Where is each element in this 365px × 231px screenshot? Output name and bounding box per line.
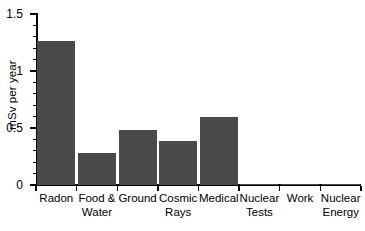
bar	[119, 130, 157, 185]
y-tick-label: 1	[16, 64, 26, 78]
x-tick-label: Radon	[36, 191, 77, 205]
bar	[281, 184, 319, 185]
x-tick-label: Ground	[117, 191, 158, 205]
x-tick-label: Food & Water	[77, 191, 118, 219]
x-tick-label: Cosmic Rays	[158, 191, 199, 219]
y-tick-label: 0.5	[6, 121, 26, 135]
bar	[37, 41, 75, 185]
y-tick-label: 1.5	[6, 7, 26, 21]
y-tick-label: 0	[16, 178, 26, 192]
bar	[200, 117, 238, 185]
x-tick-label: Nuclear Energy	[320, 191, 361, 219]
y-axis-title: mSv per year	[0, 0, 24, 190]
bar	[240, 184, 278, 185]
x-tick-label: Nuclear Tests	[239, 191, 280, 219]
bar	[78, 153, 116, 185]
plot-area	[36, 14, 361, 185]
x-tick-label: Work	[280, 191, 321, 205]
bar	[159, 141, 197, 185]
x-tick-label: Medical	[199, 191, 240, 205]
bar	[322, 184, 360, 185]
bar-chart: mSv per year 00.511.5 RadonFood & WaterG…	[0, 0, 365, 231]
